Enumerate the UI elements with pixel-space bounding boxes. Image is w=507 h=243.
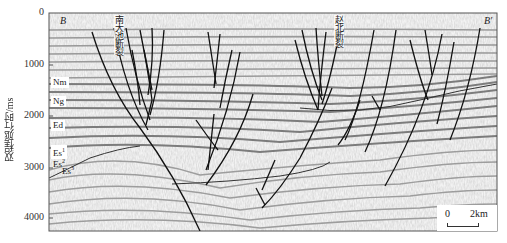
scale-bar	[447, 223, 479, 227]
scale-start: 0	[445, 208, 450, 219]
y-tick-2000: 2000	[14, 109, 44, 120]
scale-end: 2km	[470, 208, 488, 219]
y-tick-3000: 3000	[14, 161, 44, 172]
scale-bar-box: 0 2km	[437, 205, 497, 231]
fault-name-nandachi: 南大池断裂	[114, 15, 124, 55]
stratum-nm: Nm	[51, 77, 69, 88]
section-end-label: B′	[484, 15, 492, 26]
stratum-es3: Es3	[60, 163, 76, 177]
y-tick-0: 0	[14, 6, 44, 17]
section-start-label: B	[60, 15, 66, 26]
y-tick-1000: 1000	[14, 58, 44, 69]
fault-name-zhaobei: 赵北断裂	[334, 15, 344, 47]
seismic-section-plot	[0, 0, 507, 243]
stratum-ed: Ed	[51, 120, 65, 131]
stratum-ng: Ng	[51, 96, 66, 107]
y-axis-label: 双程旅行时/ms	[2, 70, 20, 190]
y-tick-4000: 4000	[14, 211, 44, 222]
seismic-section-figure: 双程旅行时/ms 0 1000 2000 3000 4000 B B′ 南大池断…	[0, 0, 507, 243]
